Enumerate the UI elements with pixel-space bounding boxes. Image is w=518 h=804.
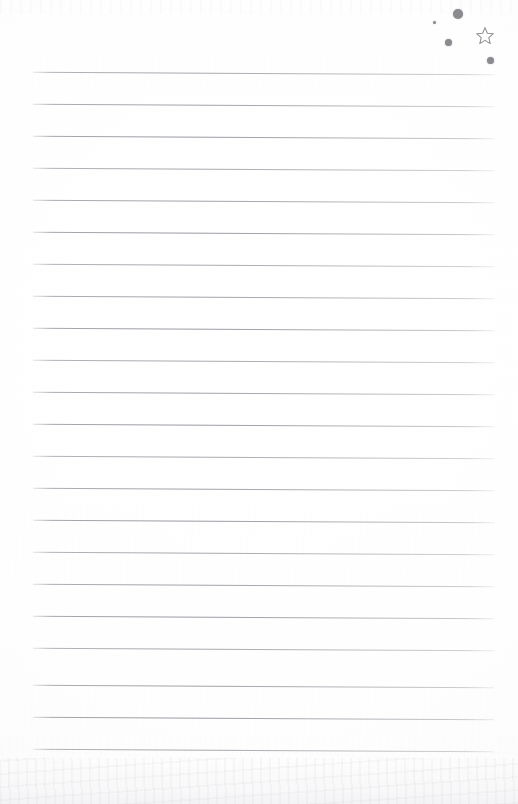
dot-large	[453, 9, 463, 19]
handdrawn-marks-group	[0, 0, 518, 804]
star-icon	[475, 26, 495, 46]
dot-medium	[445, 39, 452, 46]
dot-small	[487, 57, 494, 64]
dot-tiny	[433, 21, 436, 24]
paper-page	[0, 0, 518, 804]
